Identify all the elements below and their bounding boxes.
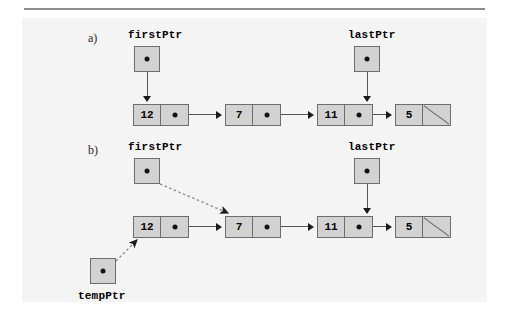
panel-b-firstptr-box xyxy=(134,158,160,184)
node-data-cell: 12 xyxy=(133,104,161,126)
panel-b-lastptr-box xyxy=(354,158,380,184)
top-horizontal-rule xyxy=(24,8,485,10)
node-link-cell xyxy=(161,104,189,126)
panel-a-node-3: 11 xyxy=(317,104,373,126)
panel-a-link-1-arrowhead xyxy=(216,111,222,119)
node-link-cell xyxy=(253,104,281,126)
panel-b-firstptr-label: firstPtr xyxy=(128,141,182,153)
panel-b-lastptr-connector-line xyxy=(367,184,368,209)
pointer-dot-icon xyxy=(356,113,361,118)
node-data-cell: 11 xyxy=(317,216,345,238)
node-data-cell: 5 xyxy=(395,104,423,126)
pointer-dot-icon xyxy=(356,225,361,230)
panel-b-link-1-line xyxy=(189,226,217,227)
panel-b-node-4: 5 xyxy=(395,216,451,238)
panel-b-link-3-arrowhead xyxy=(386,223,392,231)
null-pointer-slash-icon xyxy=(423,105,450,125)
panel-a-link-3-arrowhead xyxy=(386,111,392,119)
panel-a-node-4: 5 xyxy=(395,104,451,126)
panel-b-link-1-arrowhead xyxy=(216,223,222,231)
panel-b-link-2-line xyxy=(281,226,309,227)
panel-a-lastptr-label: lastPtr xyxy=(348,29,396,41)
panel-a-firstptr-box xyxy=(134,46,160,72)
panel-a-lastptr-arrowhead xyxy=(363,96,371,102)
panel-b-node-2: 7 xyxy=(225,216,281,238)
node-link-cell xyxy=(345,104,373,126)
panel-a-lastptr-connector-line xyxy=(367,72,368,97)
panel-a-letter: a) xyxy=(88,31,97,46)
panel-a-node-1: 12 xyxy=(133,104,189,126)
pointer-dot-icon xyxy=(365,57,370,62)
panel-a-link-2-arrowhead xyxy=(308,111,314,119)
pointer-dot-icon xyxy=(172,225,177,230)
null-pointer-slash-icon xyxy=(423,217,450,237)
pointer-dot-icon xyxy=(101,269,106,274)
node-data-cell: 11 xyxy=(317,104,345,126)
pointer-dot-icon xyxy=(264,225,269,230)
linked-list-deletion-figure: a) firstPtr lastPtr 12 7 11 5 xyxy=(0,0,509,320)
panel-b-link-2-arrowhead xyxy=(308,223,314,231)
panel-a-link-2-line xyxy=(281,114,309,115)
pointer-dot-icon xyxy=(145,57,150,62)
panel-a-node-2: 7 xyxy=(225,104,281,126)
panel-b-link-3-line xyxy=(373,226,387,227)
panel-a-firstptr-connector-line xyxy=(147,72,148,97)
node-link-cell xyxy=(345,216,373,238)
panel-b-letter: b) xyxy=(88,143,98,158)
panel-a-link-1-line xyxy=(189,114,217,115)
panel-b-node-1: 12 xyxy=(133,216,189,238)
node-data-cell: 12 xyxy=(133,216,161,238)
node-data-cell: 5 xyxy=(395,216,423,238)
panel-b-lastptr-label: lastPtr xyxy=(348,141,396,153)
panel-b-tempptr-label: tempPtr xyxy=(78,290,126,302)
panel-a-firstptr-arrowhead xyxy=(143,96,151,102)
node-data-cell: 7 xyxy=(225,216,253,238)
panel-a-firstptr-label: firstPtr xyxy=(128,29,182,41)
pointer-dot-icon xyxy=(365,169,370,174)
pointer-dot-icon xyxy=(145,169,150,174)
pointer-dot-icon xyxy=(264,113,269,118)
node-null-link-cell xyxy=(423,104,451,126)
node-link-cell xyxy=(253,216,281,238)
panel-b-tempptr-box xyxy=(90,258,116,284)
node-link-cell xyxy=(161,216,189,238)
panel-a-lastptr-box xyxy=(354,46,380,72)
panel-a-link-3-line xyxy=(373,114,387,115)
node-data-cell: 7 xyxy=(225,104,253,126)
node-null-link-cell xyxy=(423,216,451,238)
panel-b-node-3: 11 xyxy=(317,216,373,238)
panel-b-lastptr-arrowhead xyxy=(363,208,371,214)
pointer-dot-icon xyxy=(172,113,177,118)
